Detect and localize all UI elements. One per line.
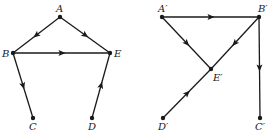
node-label-e: E: [113, 48, 122, 59]
left-graph: ABECD: [1, 3, 122, 132]
right-graph-prime: A′B′E′D′C′: [157, 3, 268, 132]
node-e-prime: [209, 67, 213, 71]
node-label-c: C: [29, 121, 37, 132]
node-b: [11, 51, 15, 55]
node-label-e-prime: E′: [212, 72, 223, 83]
node-label-d-prime: D′: [157, 121, 169, 132]
node-label-b-prime: B′: [257, 3, 268, 14]
arrowhead-icon: [81, 31, 90, 40]
node-a: [58, 15, 62, 19]
node-a-prime: [160, 15, 164, 19]
node-c: [31, 116, 35, 120]
node-label-a: A: [55, 3, 63, 14]
arrowhead-icon: [19, 82, 27, 90]
arrowhead-icon: [97, 81, 105, 89]
node-label-d: D: [87, 121, 96, 132]
node-label-c-prime: C′: [255, 121, 266, 132]
node-label-a-prime: A′: [157, 3, 168, 14]
directed-graph-diagram: ABECD A′B′E′D′C′: [0, 0, 273, 132]
node-d-prime: [161, 116, 165, 120]
node-c-prime: [258, 116, 262, 120]
node-d: [90, 116, 94, 120]
node-e: [108, 51, 112, 55]
node-b-prime: [257, 15, 261, 19]
node-label-b: B: [1, 48, 9, 59]
